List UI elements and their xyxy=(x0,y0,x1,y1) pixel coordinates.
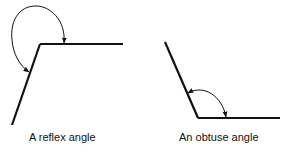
obtuse-angle-caption: An obtuse angle xyxy=(179,131,259,143)
reflex-angle-caption: A reflex angle xyxy=(29,131,96,143)
reflex-angle-figure xyxy=(12,6,123,125)
obtuse-arc-arrow xyxy=(188,90,226,117)
obtuse-slanted-arm xyxy=(165,42,198,118)
reflex-arc-arrow xyxy=(12,6,64,72)
obtuse-angle-figure xyxy=(165,42,280,118)
